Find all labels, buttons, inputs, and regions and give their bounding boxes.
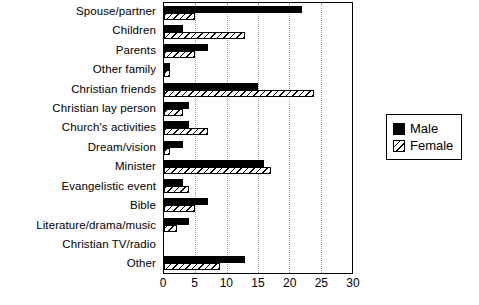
bar-male [164, 218, 189, 225]
bar-female [164, 205, 195, 212]
legend-item: Male [393, 120, 453, 137]
y-axis-label: Literature/drama/music [0, 216, 160, 235]
bar-male [164, 63, 170, 70]
legend-swatch-female-icon [393, 140, 405, 152]
x-tick-label: 30 [346, 277, 359, 289]
bar-group [164, 177, 352, 196]
bar-male [164, 44, 208, 51]
legend-item: Female [393, 137, 453, 154]
bar-group [164, 234, 352, 253]
y-axis-label: Parents [0, 41, 160, 60]
y-axis-label: Christian friends [0, 80, 160, 99]
y-axis-label: Children [0, 21, 160, 40]
bar-chart: Spouse/partnerChildrenParentsOther famil… [0, 0, 479, 305]
bar-group [164, 138, 352, 157]
bar-male [164, 121, 189, 128]
bar-group [164, 119, 352, 138]
x-axis: 051015202530 [163, 274, 353, 298]
bar-group [164, 99, 352, 118]
bar-female [164, 167, 271, 174]
bar-female [164, 109, 183, 116]
bar-male [164, 83, 258, 90]
bar-group [164, 61, 352, 80]
bar-male [164, 6, 302, 13]
bar-groups [164, 3, 352, 273]
bar-female [164, 13, 195, 20]
bar-group [164, 254, 352, 273]
bar-female [164, 128, 208, 135]
bar-group [164, 80, 352, 99]
bar-group [164, 3, 352, 22]
bar-male [164, 141, 183, 148]
bar-group [164, 157, 352, 176]
y-axis-label: Church's activities [0, 119, 160, 138]
y-axis-label: Spouse/partner [0, 2, 160, 21]
x-tick-label: 20 [283, 277, 296, 289]
y-axis-label: Christian lay person [0, 99, 160, 118]
legend-swatch-male-icon [393, 123, 405, 135]
x-tick-label: 25 [315, 277, 328, 289]
bar-female [164, 148, 170, 155]
legend-label: Male [410, 122, 438, 135]
x-tick-label: 5 [191, 277, 198, 289]
bar-female [164, 32, 245, 39]
x-tick-label: 15 [251, 277, 264, 289]
x-tick-label: 0 [160, 277, 167, 289]
bar-female [164, 51, 195, 58]
bar-male [164, 160, 264, 167]
y-axis-label: Minister [0, 157, 160, 176]
bar-female [164, 225, 177, 232]
bar-male [164, 179, 183, 186]
bar-male [164, 198, 208, 205]
y-axis-label: Bible [0, 196, 160, 215]
bar-male [164, 102, 189, 109]
bar-group [164, 196, 352, 215]
legend: MaleFemale [386, 114, 462, 160]
plot-area [163, 2, 353, 274]
bar-male [164, 256, 245, 263]
y-axis-label: Other family [0, 60, 160, 79]
bar-female [164, 186, 189, 193]
x-tick-label: 10 [220, 277, 233, 289]
bar-group [164, 215, 352, 234]
y-axis-label: Christian TV/radio [0, 235, 160, 254]
bar-group [164, 22, 352, 41]
y-axis-category-labels: Spouse/partnerChildrenParentsOther famil… [0, 2, 160, 274]
y-axis-label: Evangelistic event [0, 177, 160, 196]
bar-female [164, 90, 314, 97]
bar-group [164, 42, 352, 61]
bar-female [164, 263, 220, 270]
y-axis-label: Other [0, 254, 160, 273]
legend-label: Female [410, 139, 453, 152]
y-axis-label: Dream/vision [0, 138, 160, 157]
bar-male [164, 25, 183, 32]
bar-female [164, 70, 170, 77]
